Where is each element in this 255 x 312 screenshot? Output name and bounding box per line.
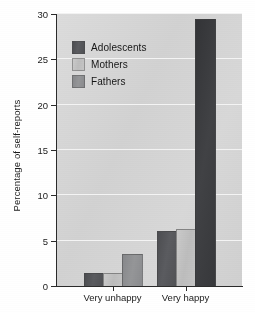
x-axis-tick-label: Very happy xyxy=(162,292,210,303)
x-axis-tick xyxy=(186,286,187,291)
legend-label-fathers: Fathers xyxy=(91,76,126,87)
y-axis-tick xyxy=(51,241,56,242)
y-axis-tick-label: 10 xyxy=(24,190,48,201)
x-axis-tick xyxy=(113,286,114,291)
bar-fathers-very-happy xyxy=(195,19,216,286)
legend-item-adolescents: Adolescents xyxy=(72,40,147,55)
y-axis-line xyxy=(56,14,57,287)
legend-swatch-mothers xyxy=(72,58,85,71)
y-axis-tick-label: 15 xyxy=(24,145,48,156)
y-axis-tick-label: 20 xyxy=(24,99,48,110)
bar-fathers-very-unhappy xyxy=(122,254,143,286)
gridline xyxy=(57,13,242,14)
y-axis-tick xyxy=(51,59,56,60)
y-axis-tick-label: 5 xyxy=(24,235,48,246)
plot-area: Adolescents Mothers Fathers xyxy=(57,14,242,286)
legend-label-mothers: Mothers xyxy=(91,59,128,70)
y-axis-tick xyxy=(51,286,56,287)
legend-item-mothers: Mothers xyxy=(72,57,147,72)
legend-label-adolescents: Adolescents xyxy=(91,42,147,53)
bar-adolescents-very-happy xyxy=(157,231,178,286)
legend-swatch-adolescents xyxy=(72,41,85,54)
legend-item-fathers: Fathers xyxy=(72,74,147,89)
y-axis-tick-label: 30 xyxy=(24,9,48,20)
bar-mothers-very-unhappy xyxy=(103,273,124,286)
y-axis-tick xyxy=(51,150,56,151)
y-axis-tick xyxy=(51,195,56,196)
y-axis-title: Percentage of self-reports xyxy=(11,56,22,256)
x-axis-line xyxy=(56,286,243,287)
legend-swatch-fathers xyxy=(72,75,85,88)
bar-mothers-very-happy xyxy=(176,229,197,286)
y-axis-tick xyxy=(51,105,56,106)
chart-legend: Adolescents Mothers Fathers xyxy=(72,40,147,91)
y-axis-tick-label: 25 xyxy=(24,54,48,65)
x-axis-tick-label: Very unhappy xyxy=(83,292,141,303)
bar-adolescents-very-unhappy xyxy=(84,273,105,286)
y-axis-tick xyxy=(51,14,56,15)
y-axis-tick-label: 0 xyxy=(24,281,48,292)
bar-chart-figure: Percentage of self-reports Adolescents M… xyxy=(0,0,255,312)
